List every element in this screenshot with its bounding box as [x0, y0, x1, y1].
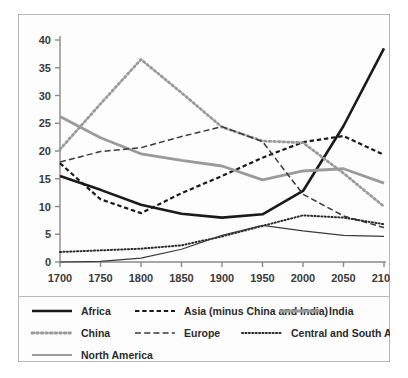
- x-axis-tick-label: 1950: [250, 272, 274, 284]
- legend-item-label[interactable]: Europe: [184, 327, 220, 339]
- x-axis-tick-label: 1800: [129, 272, 153, 284]
- series-line: [60, 48, 384, 217]
- legend-item-label[interactable]: China: [81, 327, 110, 339]
- x-axis-tick-label: 1700: [48, 272, 72, 284]
- series-line: [60, 59, 384, 206]
- y-axis-tick-label: 30: [39, 90, 51, 102]
- legend-item-label[interactable]: Africa: [81, 305, 111, 317]
- x-axis-tick-label: 1900: [210, 272, 234, 284]
- legend-item-label[interactable]: North America: [81, 349, 153, 361]
- x-axis-tick-label: 1750: [88, 272, 112, 284]
- y-axis-tick-label: 20: [39, 145, 51, 157]
- series-line: [60, 136, 384, 213]
- chart-legend: AfricaAsia (minus China and India)IndiaC…: [18, 296, 390, 362]
- series-line: [60, 215, 384, 252]
- y-axis-tick-label: 0: [45, 256, 51, 268]
- line-chart: 0510152025303540170017501800185019001950…: [18, 14, 390, 296]
- chart-plot-area: 0510152025303540170017501800185019001950…: [18, 14, 390, 296]
- y-axis-tick-label: 35: [39, 62, 51, 74]
- legend-item-label[interactable]: Central and South America: [291, 327, 390, 339]
- series-line: [60, 225, 384, 262]
- y-axis-tick-label: 10: [39, 201, 51, 213]
- legend-item-label[interactable]: India: [329, 305, 354, 317]
- y-axis-tick-label: 40: [39, 34, 51, 46]
- y-axis-tick-label: 15: [39, 173, 51, 185]
- x-axis-tick-label: 1850: [169, 272, 193, 284]
- y-axis-tick-label: 5: [45, 228, 51, 240]
- x-axis-tick-label: 2050: [331, 272, 355, 284]
- x-axis-tick-label: 2100: [372, 272, 390, 284]
- x-axis-tick-label: 2000: [291, 272, 315, 284]
- y-axis-tick-label: 25: [39, 117, 51, 129]
- legend-svg: AfricaAsia (minus China and India)IndiaC…: [18, 297, 390, 361]
